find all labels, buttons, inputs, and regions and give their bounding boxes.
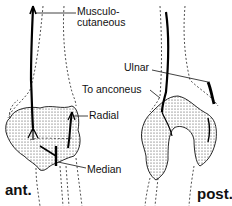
label-anterior-view: ant. bbox=[5, 182, 32, 198]
ulnar-nerve bbox=[162, 12, 168, 112]
musculocutaneous-nerve bbox=[31, 8, 33, 128]
posterior-humerus-outline bbox=[150, 6, 162, 112]
label-musculocutaneous: Musculo- cutaneous bbox=[77, 6, 125, 28]
posterior-view bbox=[141, 6, 218, 206]
anterior-view bbox=[6, 6, 88, 206]
ulnar-leader bbox=[152, 70, 208, 82]
label-ulnar: Ulnar bbox=[124, 62, 149, 73]
anterior-humerus-outline bbox=[8, 6, 43, 118]
median-leader bbox=[58, 162, 86, 168]
elbow-nerve-diagram bbox=[0, 0, 232, 206]
anconeus-leader bbox=[150, 90, 160, 98]
label-radial: Radial bbox=[89, 110, 119, 121]
label-posterior-view: post. bbox=[197, 186, 232, 202]
label-median: Median bbox=[87, 164, 121, 175]
label-musculocutaneous-line2: cutaneous bbox=[77, 17, 125, 28]
label-to-anconeus: To anconeus bbox=[82, 84, 142, 95]
